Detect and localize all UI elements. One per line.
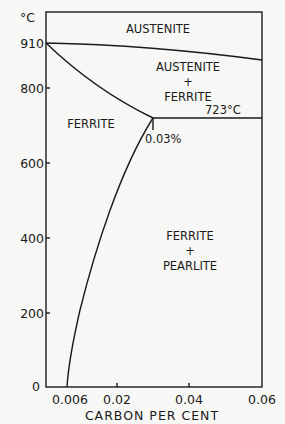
x-axis-title: CARBON PER CENT bbox=[85, 408, 219, 423]
x-tick-004: 0.04 bbox=[175, 392, 203, 407]
region-austenite-ferrite-line2: FERRITE bbox=[164, 90, 212, 104]
y-tick-0: 0 bbox=[32, 379, 40, 394]
solvus-curve bbox=[67, 118, 153, 387]
region-ferrite-pearlite-plus: + bbox=[185, 244, 195, 258]
region-austenite: AUSTENITE bbox=[126, 22, 190, 36]
y-tick-600: 600 bbox=[20, 156, 44, 171]
y-tick-200: 200 bbox=[20, 306, 44, 321]
y-tick-400: 400 bbox=[20, 231, 44, 246]
annotation-003-percent: 0.03% bbox=[145, 132, 182, 146]
y-tick-910: 910 bbox=[20, 36, 44, 51]
region-ferrite: FERRITE bbox=[67, 117, 115, 131]
region-ferrite-pearlite-line1: FERRITE bbox=[166, 229, 214, 243]
plot-frame bbox=[46, 12, 262, 387]
x-tick-006: 0.06 bbox=[248, 392, 276, 407]
austenite-boundary-line bbox=[46, 43, 262, 60]
phase-diagram-chart: °C 910 800 600 400 200 0 0.006 0.02 0.04… bbox=[0, 0, 285, 424]
x-tick-0006: 0.006 bbox=[52, 392, 88, 407]
y-tick-800: 800 bbox=[20, 81, 44, 96]
x-tick-002: 0.02 bbox=[103, 392, 131, 407]
y-unit-label: °C bbox=[20, 10, 35, 25]
region-austenite-ferrite-line1: AUSTENITE bbox=[156, 60, 220, 74]
ferrite-boundary-line bbox=[46, 43, 153, 118]
region-ferrite-pearlite-line2: PEARLITE bbox=[163, 259, 217, 273]
annotation-723c: 723°C bbox=[205, 103, 241, 117]
region-austenite-ferrite-plus: + bbox=[183, 75, 193, 89]
